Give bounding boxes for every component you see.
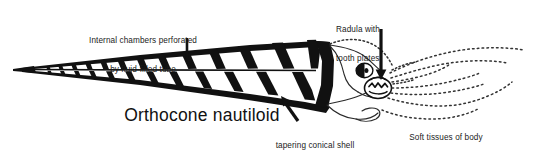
label-internal-chambers-line1: Internal chambers perforated: [68, 36, 218, 46]
label-soft-tissues-line1: Soft tissues of body: [376, 133, 516, 143]
label-radula-line1: Radula with: [336, 25, 428, 35]
label-radula: Radula with tooth plates: [336, 6, 428, 83]
label-internal-chambers-line2: by fluid-filled tube: [68, 65, 218, 75]
organism-name-label: Orthocone nautiloid: [82, 105, 322, 126]
nautiloid-figure: Internal chambers perforated by fluid-fi…: [0, 0, 533, 158]
label-tapering-conical-shell-line1: tapering conical shell: [257, 141, 373, 151]
label-tapering-conical-shell: tapering conical shell: [257, 122, 373, 158]
label-internal-chambers: Internal chambers perforated by fluid-fi…: [68, 17, 218, 94]
label-radula-line2: tooth plates: [336, 54, 428, 64]
label-soft-tissues: Soft tissues of body and tentacles (rare…: [376, 114, 516, 158]
